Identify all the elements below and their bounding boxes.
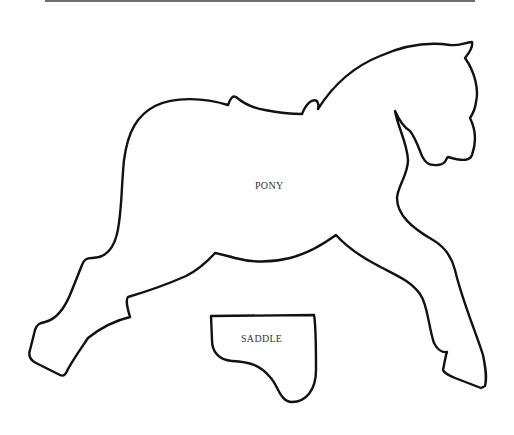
pony-label: PONY (255, 180, 283, 191)
pattern-drawing (0, 0, 514, 435)
saddle-outline (211, 315, 316, 402)
saddle-label: SADDLE (241, 333, 282, 344)
